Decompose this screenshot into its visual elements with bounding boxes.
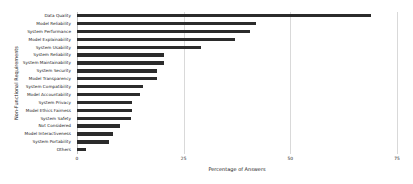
bar-row [77,101,397,104]
x-axis-title: Percentage of Answers [208,166,265,172]
bar [77,69,157,72]
y-axis-tick-label: System Security [37,69,71,73]
bar-row [77,14,397,17]
x-axis-tick-label: 50 [288,156,294,161]
bar [77,132,113,135]
bar-row [77,124,397,127]
bar-row [77,148,397,151]
bar [77,148,86,151]
bar [77,14,371,17]
x-axis-tick-label: 0 [76,156,79,161]
y-axis-tick-label: System Reliability [33,53,71,57]
bar-row [77,109,397,112]
y-axis-tick-label: Model Explainability [29,38,71,42]
bar-row [77,140,397,143]
y-axis-tick-label: Model Transparency [29,77,71,81]
bar-row [77,61,397,64]
y-axis-tick-labels: Data QualityModel ReliabilitySystem Perf… [0,12,74,154]
y-axis-tick-label: System Compatibility [26,85,71,89]
gridline-75 [397,12,398,154]
bar [77,93,140,96]
bar-row [77,85,397,88]
y-axis-tick-label: System Maintainability [23,61,71,65]
bar-row [77,46,397,49]
bar [77,85,143,88]
bar-row [77,22,397,25]
bar-row [77,77,397,80]
x-axis-tick-label: 75 [394,156,400,161]
bar [77,124,120,127]
bar [77,101,132,104]
y-axis-tick-label: Data Quality [44,14,71,18]
y-axis-tick-label: Others [57,148,71,152]
bar [77,46,201,49]
bar-row [77,38,397,41]
bar-row [77,69,397,72]
bar-chart: Non-Functional Requirements Data Quality… [0,0,413,184]
bar-row [77,132,397,135]
y-axis-tick-label: Not Considered [38,124,71,128]
y-axis-tick-label: System Performance [27,30,71,34]
bar [77,109,132,112]
bar [77,77,157,80]
bar [77,38,235,41]
y-axis-tick-label: Model Accountability [27,93,71,97]
bar-series [77,12,397,154]
x-axis-tick-labels: 0255075 [77,156,397,166]
plot-area [77,12,397,154]
y-axis-tick-label: System Privacy [39,101,71,105]
bar [77,117,131,120]
y-axis-tick-label: System Safety [40,116,71,120]
y-axis-tick-label: Model Interactiveness [25,132,71,136]
bar [77,30,250,33]
y-axis-tick-label: Model Reliability [36,22,71,26]
bar-row [77,30,397,33]
bar [77,140,109,143]
bar-row [77,53,397,56]
bar-row [77,117,397,120]
x-axis-tick-label: 25 [181,156,187,161]
bar-row [77,93,397,96]
bar [77,53,164,56]
bar [77,22,256,25]
y-axis-tick-label: Model Ethics Fairness [26,109,71,113]
bar [77,61,164,64]
y-axis-tick-label: System Usability [36,45,71,49]
y-axis-tick-label: System Portability [33,140,71,144]
